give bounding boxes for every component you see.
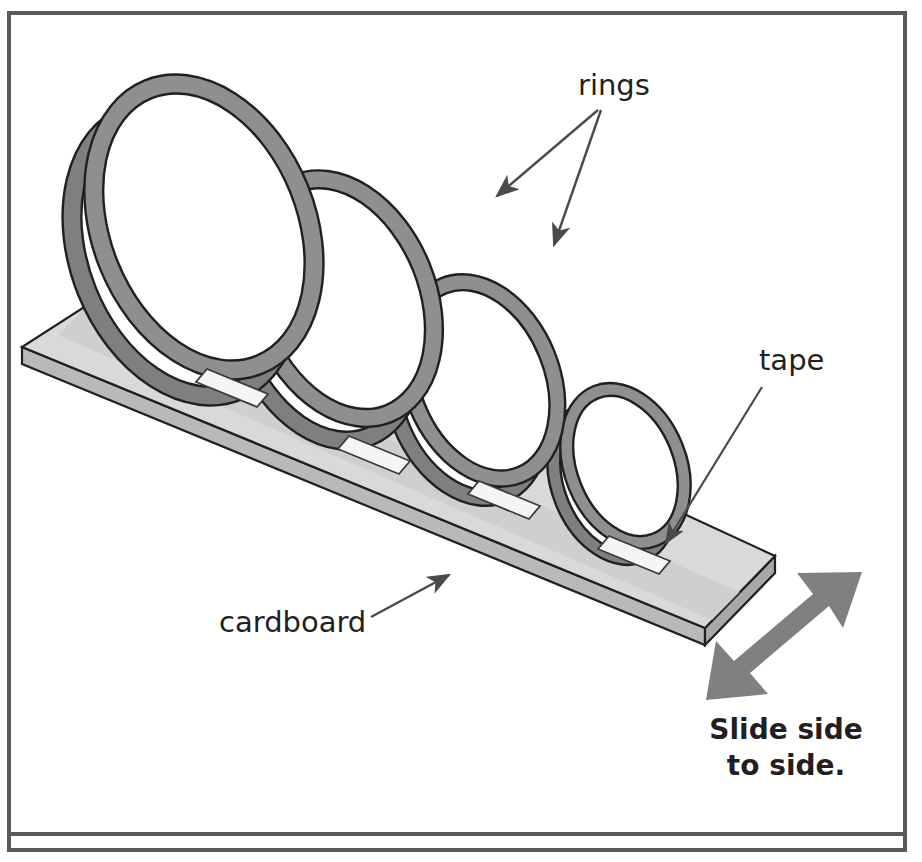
annotation-rings: rings [497, 68, 650, 245]
annotation-tape: tape [666, 343, 824, 543]
slide-caption: Slide side to side. [709, 713, 862, 782]
cardboard-leader-arrow [371, 575, 449, 617]
slide-caption-line-1: Slide side [709, 713, 862, 746]
label-rings: rings [578, 68, 650, 102]
label-tape: tape [759, 343, 824, 377]
label-cardboard: cardboard [219, 605, 366, 639]
annotation-cardboard: cardboard [219, 575, 449, 639]
diagram-canvas: rings tape cardboard Slide side to side. [0, 0, 922, 862]
rings-leader-arrow-1 [497, 110, 598, 196]
slide-caption-line-2: to side. [727, 749, 845, 782]
rings-leader-arrow-2 [554, 110, 601, 245]
figure-root: rings tape cardboard Slide side to side. [0, 0, 922, 862]
